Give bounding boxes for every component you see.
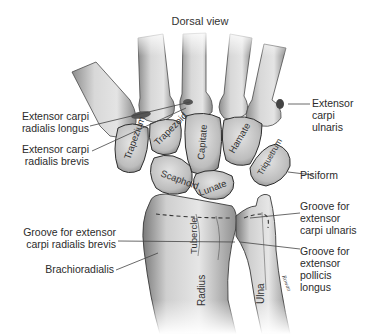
wrist-diagram: Trapezium Trapezoid Capitate Hamate Triq… (0, 0, 374, 334)
ecu-insertion (276, 99, 284, 109)
artist-signature: Rowan (281, 273, 293, 292)
tubercle-label: Tubercle (188, 217, 199, 254)
label-groove-ecu: Groove for extensor carpi ulnaris (300, 200, 357, 236)
ulna-label: Ulna (255, 283, 266, 304)
label-extensor-carpi-radialis-brevis: Extensor carpi radialis brevis (0, 143, 89, 167)
label-pisiform: Pisiform (300, 169, 338, 181)
label-groove-epl: Groove for extensor pollicis longus (300, 245, 350, 293)
label-brachioradialis: Brachioradialis (0, 263, 114, 275)
label-extensor-carpi-ulnaris: Extensor carpi ulnaris (312, 97, 353, 133)
label-extensor-carpi-radialis-longus: Extensor carpi radialis longus (0, 110, 89, 134)
radius-label: Radius (196, 275, 207, 306)
ecrb-insertion (183, 99, 193, 105)
figure-title: Dorsal view (160, 15, 240, 27)
label-groove-ecrb: Groove for extensor carpi radialis brevi… (0, 226, 116, 250)
